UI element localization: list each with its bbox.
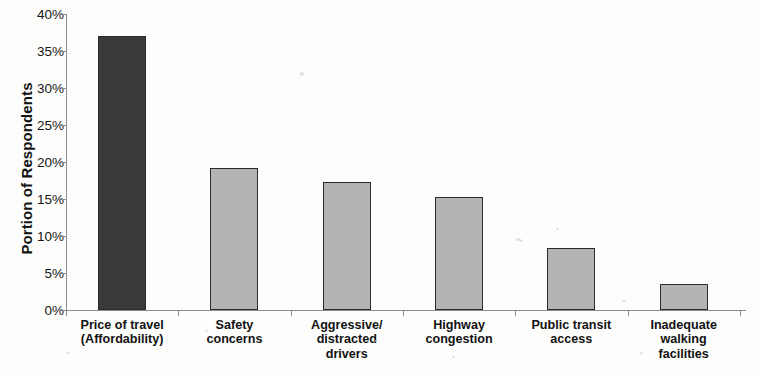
x-axis-category-label-line: (Affordability) (66, 332, 178, 346)
x-axis-line (66, 310, 746, 311)
x-axis-category-label-line: Aggressive/ (291, 318, 403, 332)
bar (547, 248, 595, 310)
x-axis-category-label: Inadequatewalkingfacilities (628, 318, 740, 361)
x-axis-tick-mark (515, 311, 516, 316)
x-axis-tick-mark (403, 311, 404, 316)
x-axis-category-label-line: Safety (178, 318, 290, 332)
x-axis-category-label-line: walking (628, 332, 740, 346)
bar (435, 197, 483, 310)
x-axis-category-label-line: drivers (291, 347, 403, 361)
scan-speckle (300, 72, 304, 75)
scan-speckle (520, 240, 523, 242)
x-axis-tick-mark (178, 311, 179, 316)
bar (98, 36, 146, 310)
bar (323, 182, 371, 310)
x-axis-category-label-line: Price of travel (66, 318, 178, 332)
y-axis-tick-label: 20% (18, 155, 64, 170)
x-axis-category-label: Public transitaccess (515, 318, 627, 347)
y-axis-tick-label: 30% (18, 81, 64, 96)
y-axis-tick-label: 35% (18, 44, 64, 59)
x-axis-tick-mark (740, 311, 741, 316)
bar (210, 168, 258, 310)
x-axis-category-label: Highwaycongestion (403, 318, 515, 347)
bar-chart: Portion of Respondents 40%35%30%25%20%15… (0, 0, 759, 376)
x-axis-category-label-line: Public transit (515, 318, 627, 332)
x-axis-tick-mark (291, 311, 292, 316)
scan-speckle (300, 74, 303, 76)
scan-speckle (452, 356, 455, 358)
x-axis-category-label-line: facilities (628, 347, 740, 361)
x-axis-category-label-line: congestion (403, 332, 515, 346)
x-axis-category-label-line: Inadequate (628, 318, 740, 332)
y-axis-tick-label: 15% (18, 192, 64, 207)
y-axis-tick-label: 40% (18, 7, 64, 22)
y-axis-tick-label: 5% (18, 266, 64, 281)
x-axis-category-label-line: access (515, 332, 627, 346)
y-axis-tick-label: 10% (18, 229, 64, 244)
x-axis-category-label-line: concerns (178, 332, 290, 346)
scan-speckle (66, 352, 70, 354)
x-axis-tick-mark (66, 311, 67, 316)
scan-speckle (622, 300, 626, 302)
y-axis-tick-labels: 40%35%30%25%20%15%10%5%0% (8, 0, 64, 376)
y-axis-tick-label: 0% (18, 303, 64, 318)
x-axis-category-label-line: Highway (403, 318, 515, 332)
x-axis-category-label-line: distracted (291, 332, 403, 346)
x-axis-category-label: Safetyconcerns (178, 318, 290, 347)
scan-speckle (556, 228, 559, 230)
y-axis-tick-label: 25% (18, 118, 64, 133)
scan-speckle (516, 238, 521, 241)
x-axis-category-label: Price of travel(Affordability) (66, 318, 178, 347)
x-axis-tick-mark (628, 311, 629, 316)
y-axis-line (66, 14, 67, 311)
bar (660, 284, 708, 310)
x-axis-category-label: Aggressive/distracteddrivers (291, 318, 403, 361)
